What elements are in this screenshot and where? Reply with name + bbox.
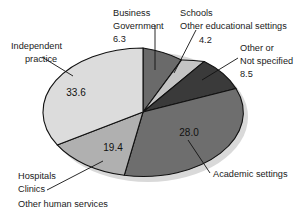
label-independent-practice: Independent practice bbox=[11, 41, 63, 64]
label-other-not-specified: Other or Not specified 8.5 bbox=[240, 43, 293, 79]
label-hospitals-clinics: Hospitals Clinics Other human services bbox=[18, 171, 108, 209]
label-hospitals-clinics-line3: Other human services bbox=[18, 199, 108, 209]
label-other-not-specified-line1: Other or bbox=[240, 43, 274, 53]
label-hospitals-clinics-line1: Hospitals bbox=[18, 171, 56, 181]
pie-chart-svg: 28.0 19.4 33.6 Business Government 6.3 S… bbox=[0, 0, 302, 214]
label-hospitals-clinics-line2: Clinics bbox=[18, 184, 45, 194]
label-independent-practice-line1: Independent bbox=[11, 41, 63, 51]
label-independent-practice-line2: practice bbox=[25, 54, 57, 64]
label-business-government-value: 6.3 bbox=[113, 34, 126, 44]
slice-value-academic-settings: 28.0 bbox=[179, 127, 199, 138]
label-academic-settings-line1: Academic settings bbox=[213, 169, 288, 179]
label-schools-education: Schools Other educational settings 4.2 bbox=[180, 8, 287, 45]
label-business-government-line1: Business bbox=[113, 8, 151, 18]
slice-value-hospitals-clinics: 19.4 bbox=[103, 142, 123, 153]
label-other-not-specified-line2: Not specified bbox=[240, 56, 293, 66]
pie-chart-figure: 28.0 19.4 33.6 Business Government 6.3 S… bbox=[0, 0, 302, 214]
label-business-government: Business Government 6.3 bbox=[113, 8, 164, 44]
label-schools-education-line1: Schools bbox=[180, 8, 213, 18]
label-business-government-line2: Government bbox=[113, 21, 164, 31]
slice-value-independent-practice: 33.6 bbox=[66, 87, 86, 98]
label-schools-education-line2: Other educational settings bbox=[180, 21, 287, 31]
label-other-not-specified-value: 8.5 bbox=[240, 69, 253, 79]
label-schools-education-value: 4.2 bbox=[199, 35, 212, 45]
label-academic-settings: Academic settings bbox=[213, 169, 288, 179]
